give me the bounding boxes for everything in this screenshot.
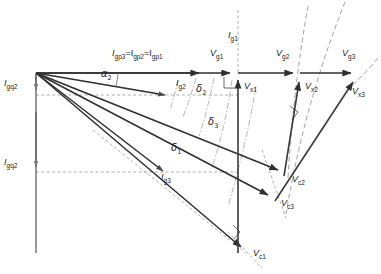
label-Vg2: Vg2 — [276, 49, 289, 58]
label-Ig3: Ig3 — [161, 173, 171, 182]
label-Vc1: Vc1 — [253, 249, 266, 258]
angle-arc-alpha2 — [116, 73, 118, 86]
current-phasors — [36, 73, 199, 171]
label-delta3: δ3 — [208, 117, 218, 127]
right-angle-vx1 — [224, 77, 236, 88]
label-Ig2: Ig2 — [176, 79, 186, 88]
arc-locus-right — [352, 58, 378, 86]
locus-aux-b — [228, 86, 256, 206]
label-Vx3: Vx3 — [352, 87, 365, 96]
phasor-Vc1 — [36, 73, 241, 247]
phasor-Ig3 — [36, 73, 163, 171]
phasor-diagram-canvas: Ig1 Igp3=Igp2=Igp1 Ig2 Ig3 Igq2 Igq2 α2 … — [0, 0, 381, 274]
label-delta1: δ1 — [171, 143, 181, 153]
phasor-Vc2 — [36, 73, 278, 170]
phasor-diagram-svg — [0, 0, 381, 274]
label-Vg1: Vg1 — [210, 49, 223, 58]
label-Vx1: Vx1 — [244, 82, 257, 91]
vc-phasors — [36, 73, 278, 247]
label-Vx2: Vx2 — [305, 82, 318, 91]
label-Vc2: Vc2 — [292, 175, 305, 184]
label-Igq2-upper: Igq2 — [4, 79, 17, 88]
right-angle-vc1 — [233, 225, 240, 239]
label-Igq2-lower: Igq2 — [4, 158, 17, 167]
label-Vg3: Vg3 — [342, 49, 355, 58]
label-delta2: δ2 — [196, 84, 206, 94]
phasor-Vc3 — [36, 73, 268, 195]
construction-angle-loci — [170, 78, 256, 206]
phasor-Vx3 — [275, 82, 353, 201]
phasor-Vx2 — [284, 82, 299, 176]
label-Igp-group: Igp3=Igp2=Igp1 — [112, 49, 163, 58]
label-alpha2: α2 — [101, 69, 112, 79]
label-Ig1: Ig1 — [228, 31, 238, 40]
label-Vc3: Vc3 — [281, 199, 294, 208]
